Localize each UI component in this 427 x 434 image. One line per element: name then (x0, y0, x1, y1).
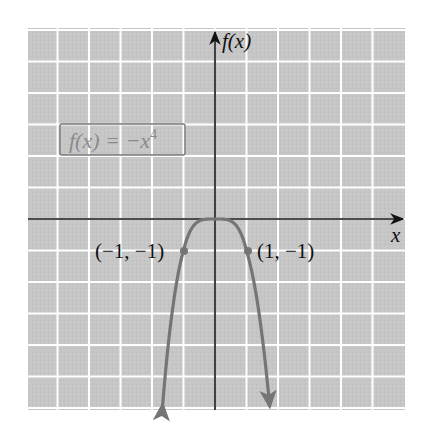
x-axis-label: x (390, 223, 401, 247)
y-axis-label: f(x) (222, 29, 251, 53)
point-right-marker (244, 247, 252, 255)
function-label: f(x) = −x4 (69, 127, 157, 153)
point-left-marker (180, 247, 188, 255)
point-right-label: (1, −1) (257, 239, 314, 263)
point-left-label: (−1, −1) (95, 239, 164, 263)
graph: f(x) = −x4 f(x) x (−1, −1) (1, −1) (0, 0, 427, 434)
